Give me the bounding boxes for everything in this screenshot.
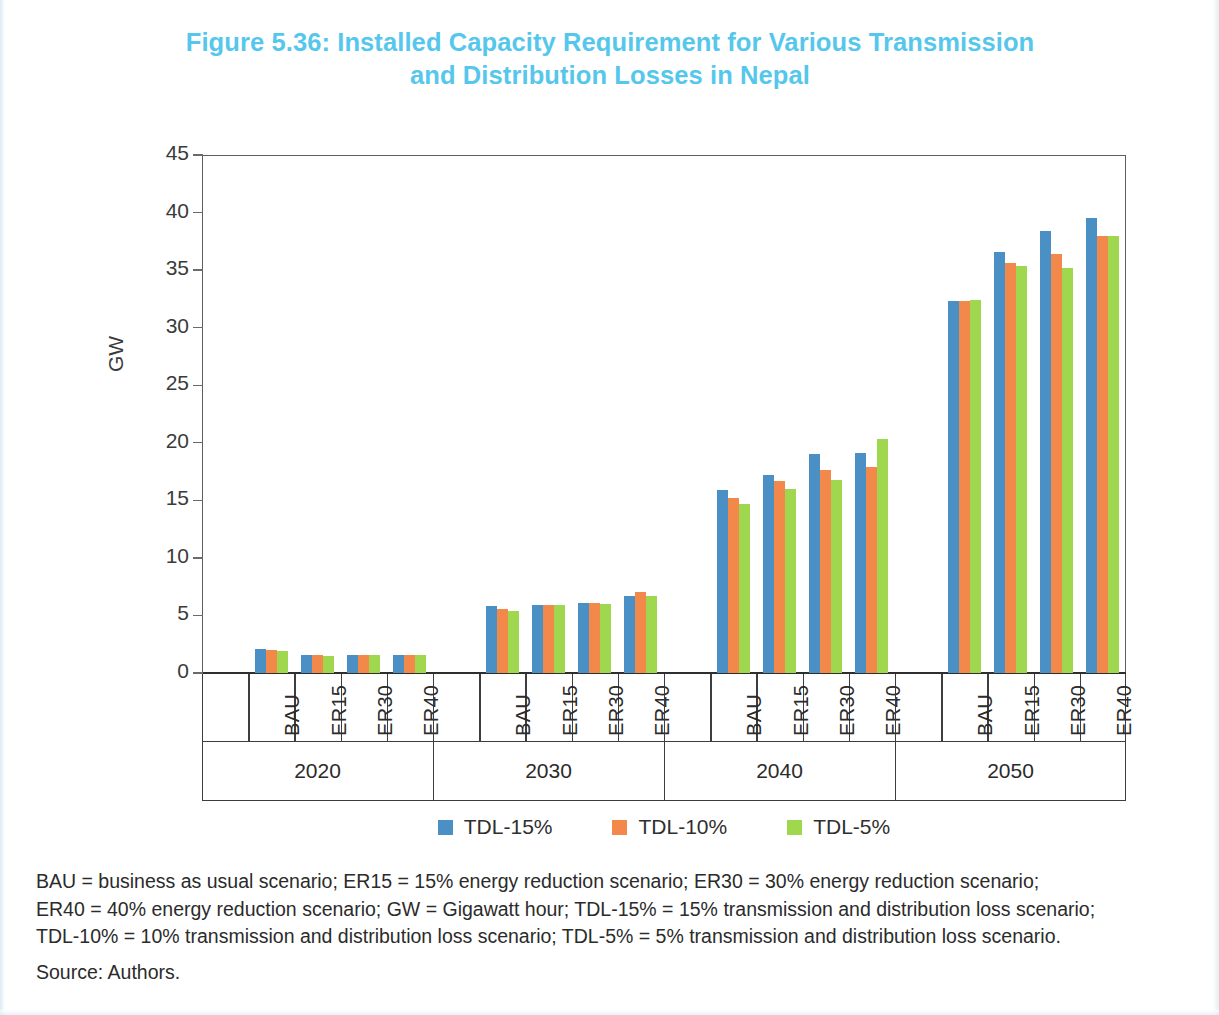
y-axis-tick-label: 5	[129, 602, 189, 623]
x-axis-scenario-label: ER40	[651, 685, 674, 736]
bar	[277, 651, 288, 673]
bar	[855, 453, 866, 673]
x-axis-scenario-label: ER15	[1021, 685, 1044, 736]
bar	[728, 498, 739, 673]
bar	[369, 655, 380, 673]
x-axis-scenario-label: ER15	[328, 685, 351, 736]
bar	[312, 655, 323, 673]
x-axis-scenario-label: ER40	[882, 685, 905, 736]
bar	[774, 481, 785, 673]
bar	[358, 655, 369, 673]
x-axis-scenario-label: BAU	[743, 694, 766, 736]
scenario-cell-divider	[202, 674, 203, 742]
bar	[497, 609, 508, 673]
legend-swatch-icon	[787, 820, 802, 835]
bar	[323, 656, 334, 673]
bar	[578, 603, 589, 673]
bar	[1062, 268, 1073, 673]
bar	[866, 467, 877, 673]
scenario-cell-divider	[941, 674, 942, 742]
bar	[543, 605, 554, 673]
bar	[255, 649, 266, 673]
bar	[948, 301, 959, 673]
y-axis-tick-label: 10	[129, 545, 189, 566]
notes-line-1: BAU = business as usual scenario; ER15 =…	[36, 868, 1186, 896]
bar	[600, 604, 611, 673]
bar	[1051, 254, 1062, 673]
notes-line-3: TDL-10% = 10% transmission and distribut…	[36, 923, 1186, 951]
bar	[959, 301, 970, 673]
figure-page: Figure 5.36: Installed Capacity Requirem…	[0, 0, 1219, 1015]
x-axis-year-label: 2050	[895, 759, 1126, 783]
bars-layer	[202, 155, 1126, 673]
y-axis-tick-label: 45	[129, 142, 189, 163]
y-axis-tick-label: 15	[129, 487, 189, 508]
bar	[763, 475, 774, 673]
x-axis-scenario-label: ER15	[790, 685, 813, 736]
scenario-cell-divider	[710, 674, 711, 742]
bar	[970, 300, 981, 673]
x-axis-year-label: 2030	[433, 759, 664, 783]
x-axis-scenario-label: BAU	[281, 694, 304, 736]
x-axis-year-label: 2040	[664, 759, 895, 783]
chart: 051015202530354045 GW BAUER15ER30ER40BAU…	[0, 0, 1219, 860]
bar	[393, 655, 404, 673]
bar	[820, 470, 831, 673]
chart-legend: TDL-15%TDL-10%TDL-5%	[202, 815, 1126, 839]
bar	[1086, 218, 1097, 673]
legend-swatch-icon	[612, 820, 627, 835]
scenario-cell-divider	[664, 674, 665, 742]
scenario-cell-divider	[479, 674, 480, 742]
x-axis-scenario-label: ER40	[420, 685, 443, 736]
bar	[508, 611, 519, 673]
bar	[646, 596, 657, 673]
bar	[347, 655, 358, 673]
bar	[877, 439, 888, 673]
bar	[301, 655, 312, 673]
bar	[624, 596, 635, 673]
x-axis-scenario-label: ER15	[559, 685, 582, 736]
bar	[994, 252, 1005, 673]
legend-swatch-icon	[438, 820, 453, 835]
y-axis-tick-label: 35	[129, 257, 189, 278]
x-axis-scenario-row: BAUER15ER30ER40BAUER15ER30ER40BAUER15ER3…	[202, 674, 1126, 744]
y-axis-tick-label: 30	[129, 315, 189, 336]
y-axis-title: GW	[104, 336, 128, 372]
x-axis-year-label: 2020	[202, 759, 433, 783]
legend-label: TDL-5%	[813, 815, 890, 839]
legend-item: TDL-5%	[787, 815, 890, 839]
x-axis-scenario-label: ER30	[374, 685, 397, 736]
bar	[831, 480, 842, 673]
bar	[589, 603, 600, 673]
bar	[717, 490, 728, 673]
bar	[532, 605, 543, 673]
bar	[809, 454, 820, 673]
bar	[404, 655, 415, 673]
notes-line-2: ER40 = 40% energy reduction scenario; GW…	[36, 896, 1186, 924]
y-axis-tick-label: 40	[129, 200, 189, 221]
x-axis-scenario-label: ER30	[1067, 685, 1090, 736]
bar	[635, 592, 646, 673]
x-axis-scenario-label: ER30	[836, 685, 859, 736]
figure-source: Source: Authors.	[36, 961, 180, 984]
x-axis-scenario-label: ER30	[605, 685, 628, 736]
figure-notes: BAU = business as usual scenario; ER15 =…	[36, 868, 1186, 951]
legend-label: TDL-15%	[464, 815, 553, 839]
bar	[486, 606, 497, 673]
legend-item: TDL-10%	[612, 815, 727, 839]
scenario-cell-divider	[433, 674, 434, 742]
x-axis-scenario-label: BAU	[974, 694, 997, 736]
scenario-cell-divider	[248, 674, 249, 742]
legend-item: TDL-15%	[438, 815, 553, 839]
bar	[266, 650, 277, 673]
bar	[1040, 231, 1051, 673]
bar	[1005, 263, 1016, 673]
y-axis-tick-label: 25	[129, 372, 189, 393]
bar	[1097, 236, 1108, 673]
y-axis-tick-label: 0	[129, 660, 189, 681]
bar	[739, 504, 750, 673]
page-edge-bottom	[0, 1010, 1219, 1015]
scenario-cell-divider	[895, 674, 896, 742]
y-axis-tick-label: 20	[129, 430, 189, 451]
bar	[415, 655, 426, 673]
